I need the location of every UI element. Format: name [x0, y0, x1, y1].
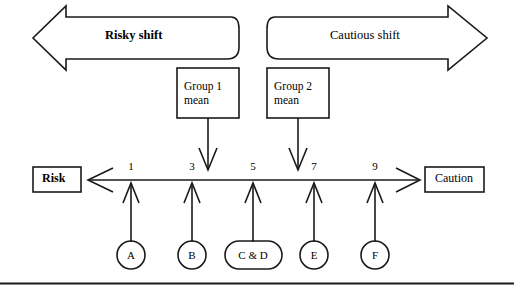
caution-endpoint-label: Caution [435, 172, 473, 184]
group-2-mean-label: Group 2 mean [274, 79, 312, 107]
axis-tick-1: 1 [124, 160, 138, 172]
item-label-a: A [122, 249, 140, 261]
group-1-mean-label: Group 1 mean [184, 79, 222, 107]
axis-tick-5: 5 [246, 160, 260, 172]
risk-endpoint-label: Risk [42, 172, 65, 184]
risky-shift-label: Risky shift [105, 29, 162, 42]
group-1-mean-line2: mean [184, 93, 222, 107]
item-pointer-arrows [123, 183, 383, 242]
group-2-mean-line2: mean [274, 93, 312, 107]
cautious-shift-label: Cautious shift [330, 29, 400, 42]
axis-tick-9: 9 [368, 160, 382, 172]
group-2-mean-line1: Group 2 [274, 79, 312, 93]
item-label-e: E [305, 249, 323, 261]
axis-tick-7: 7 [307, 160, 321, 172]
item-label-b: B [183, 249, 201, 261]
axis-tick-3: 3 [185, 160, 199, 172]
diagram-canvas: Risky shift Cautious shift Group 1 mean … [0, 0, 514, 297]
item-label-f: F [366, 249, 384, 261]
group-1-mean-line1: Group 1 [184, 79, 222, 93]
item-label-cd: C & D [230, 249, 276, 261]
